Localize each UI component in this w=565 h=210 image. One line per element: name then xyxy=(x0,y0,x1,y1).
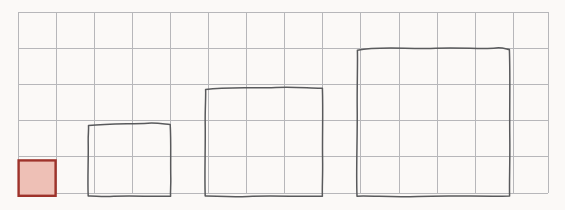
grid-paper-figure xyxy=(0,0,565,210)
square-1x1 xyxy=(19,160,56,195)
paper-texture-group xyxy=(0,0,565,210)
figure-drawing-surface xyxy=(0,0,565,210)
square-1x1-fill xyxy=(19,160,56,195)
